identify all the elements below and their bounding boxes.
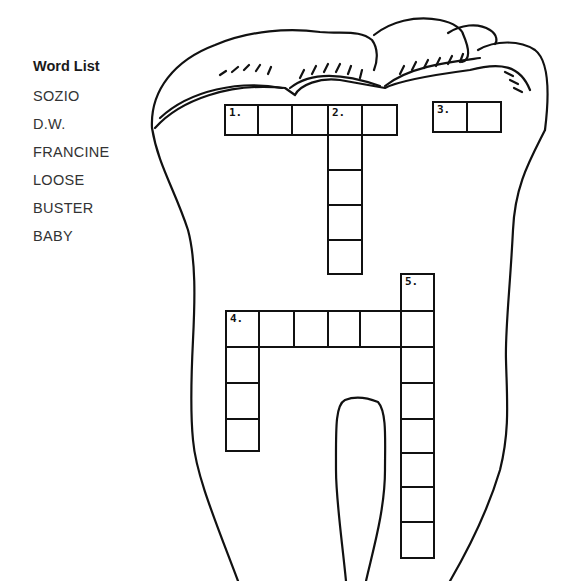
clue-number: 2. [332, 106, 345, 119]
crossword-cell[interactable] [291, 104, 329, 136]
crossword-cell[interactable] [400, 486, 435, 523]
crossword-cell-1-across-1[interactable]: 1. [224, 104, 259, 136]
crossword-cell[interactable] [400, 346, 435, 384]
crossword-cell[interactable] [400, 310, 435, 348]
crossword-cell[interactable] [225, 382, 260, 420]
crossword-cell[interactable] [359, 310, 402, 348]
crossword-cell[interactable] [327, 310, 361, 348]
crossword-cell[interactable] [400, 418, 435, 454]
crossword-cell[interactable] [258, 310, 295, 348]
crossword-cell[interactable] [327, 239, 363, 275]
tooth-outline-icon [0, 0, 583, 581]
crossword-cell-5-down-1[interactable]: 5. [400, 273, 435, 312]
crossword-cell-4-across-1[interactable]: 4. [225, 310, 260, 348]
crossword-cell[interactable] [225, 346, 260, 384]
crossword-cell[interactable] [293, 310, 329, 348]
crossword-cell[interactable] [327, 169, 363, 206]
crossword-cell-2-down-1[interactable]: 2. [327, 104, 363, 136]
crossword-cell[interactable] [400, 452, 435, 488]
crossword-cell[interactable] [466, 101, 502, 133]
crossword-cell[interactable] [400, 521, 435, 559]
crossword-cell[interactable] [257, 104, 293, 136]
crossword-cell[interactable] [327, 134, 363, 171]
crossword-cell-3-across-1[interactable]: 3. [432, 101, 468, 133]
clue-number: 5. [405, 275, 418, 288]
crossword-cell[interactable] [225, 418, 260, 452]
clue-number: 4. [230, 312, 243, 325]
crossword-cell[interactable] [361, 104, 398, 136]
clue-number: 3. [437, 103, 450, 116]
crossword-cell[interactable] [327, 204, 363, 241]
crossword-cell[interactable] [400, 382, 435, 420]
clue-number: 1. [229, 106, 242, 119]
